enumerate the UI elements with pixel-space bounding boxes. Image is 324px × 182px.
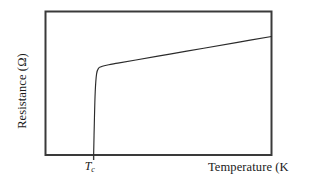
resistance-temperature-figure: Resistance (Ω) Temperature (K Tc — [0, 0, 324, 182]
x-axis-label: Temperature (K — [208, 161, 289, 174]
plot-canvas — [0, 0, 324, 182]
plot-frame — [46, 12, 272, 156]
y-axis-label: Resistance (Ω) — [16, 0, 32, 182]
tc-annotation-label: Tc — [85, 160, 95, 172]
tc-subscript: c — [91, 165, 95, 174]
